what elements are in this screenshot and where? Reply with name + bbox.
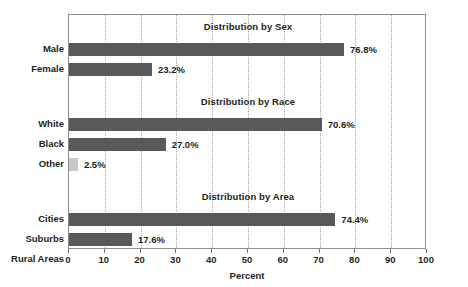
category-label: Suburbs bbox=[0, 232, 64, 245]
x-axis-title: Percent bbox=[68, 270, 426, 281]
panel-title: Distribution by Race bbox=[69, 96, 426, 107]
x-tick-label: 40 bbox=[191, 254, 231, 265]
x-tick-mark bbox=[68, 249, 69, 253]
x-tick-label: 60 bbox=[263, 254, 303, 265]
bar bbox=[69, 138, 166, 151]
bar-chart: Distribution by Sex76.8%23.2%Distributio… bbox=[0, 0, 468, 287]
bar-value-label: 27.0% bbox=[172, 138, 199, 151]
bar-value-label: 2.5% bbox=[84, 158, 106, 171]
bar bbox=[69, 158, 78, 171]
plot-area: Distribution by Sex76.8%23.2%Distributio… bbox=[68, 14, 426, 249]
x-tick-mark bbox=[354, 249, 355, 253]
category-label: Female bbox=[0, 62, 64, 75]
x-tick-label: 0 bbox=[48, 254, 88, 265]
category-label: Other bbox=[0, 157, 64, 170]
x-tick-mark bbox=[283, 249, 284, 253]
x-tick-mark bbox=[319, 249, 320, 253]
bar bbox=[69, 213, 335, 226]
bar bbox=[69, 233, 132, 246]
category-label: Black bbox=[0, 137, 64, 150]
bar bbox=[69, 118, 322, 131]
x-tick-label: 20 bbox=[120, 254, 160, 265]
x-tick-mark bbox=[426, 249, 427, 253]
x-tick-mark bbox=[247, 249, 248, 253]
category-label-column: MaleFemaleWhiteBlackOtherCitiesSuburbsRu… bbox=[0, 14, 64, 249]
bar-value-label: 76.8% bbox=[350, 43, 377, 56]
x-tick-mark bbox=[104, 249, 105, 253]
x-tick-label: 50 bbox=[227, 254, 267, 265]
bar-value-label: 23.2% bbox=[158, 63, 185, 76]
x-tick-mark bbox=[175, 249, 176, 253]
x-tick-label: 70 bbox=[299, 254, 339, 265]
x-tick-label: 30 bbox=[155, 254, 195, 265]
category-label: Male bbox=[0, 42, 64, 55]
x-tick-mark bbox=[140, 249, 141, 253]
x-tick-mark bbox=[390, 249, 391, 253]
category-label: Cities bbox=[0, 212, 64, 225]
panel-title: Distribution by Sex bbox=[69, 21, 426, 32]
x-tick-label: 10 bbox=[84, 254, 124, 265]
bar-value-label: 70.6% bbox=[328, 118, 355, 131]
x-tick-label: 90 bbox=[370, 254, 410, 265]
bar bbox=[69, 63, 152, 76]
bar-value-label: 74.4% bbox=[341, 213, 368, 226]
category-label: White bbox=[0, 117, 64, 130]
panel-title: Distribution by Area bbox=[69, 191, 426, 202]
x-tick-label: 80 bbox=[334, 254, 374, 265]
bar bbox=[69, 43, 344, 56]
x-tick-label: 100 bbox=[406, 254, 446, 265]
bar-value-label: 17.6% bbox=[138, 233, 165, 246]
gridline bbox=[391, 15, 392, 248]
x-tick-mark bbox=[211, 249, 212, 253]
